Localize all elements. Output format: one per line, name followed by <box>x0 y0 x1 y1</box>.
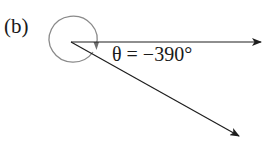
angle-label: θ = −390° <box>112 43 192 65</box>
rotation-arrowhead-icon <box>94 42 100 50</box>
angle-diagram: (b) θ = −390° <box>0 0 265 141</box>
panel-label: (b) <box>4 14 29 38</box>
rotation-circle <box>49 16 99 62</box>
